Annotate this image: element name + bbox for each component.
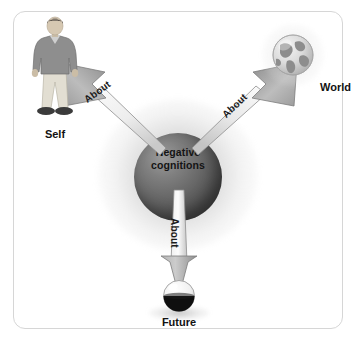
negative-cognitions-label-line2: cognitions bbox=[151, 159, 205, 171]
half-filled-sphere-icon bbox=[162, 279, 196, 313]
diagram-canvas: Negative cognitions About bbox=[0, 0, 358, 342]
future-label: Future bbox=[141, 316, 217, 328]
self-node: Self bbox=[22, 16, 88, 144]
globe-icon bbox=[271, 33, 315, 77]
arrow-about-future-label: About bbox=[169, 218, 180, 248]
self-label: Self bbox=[16, 128, 94, 140]
future-node: Future bbox=[143, 276, 215, 326]
world-node: World bbox=[262, 24, 348, 104]
world-label: World bbox=[320, 81, 351, 93]
person-standing-icon bbox=[22, 16, 88, 122]
